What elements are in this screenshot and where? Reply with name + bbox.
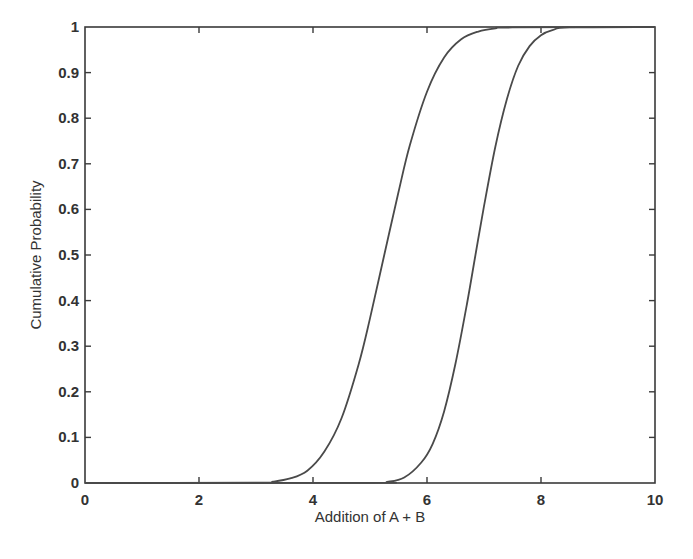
x-tick-label: 0 (81, 491, 89, 508)
y-tick-label: 0.3 (58, 337, 79, 354)
plot-frame (85, 27, 655, 483)
x-tick-label: 4 (309, 491, 318, 508)
y-tick-label: 0.9 (58, 64, 79, 81)
y-axis-label: Cumulative Probability (27, 180, 44, 330)
x-axis-label: Addition of A + B (315, 508, 426, 525)
y-tick-label: 0.8 (58, 109, 79, 126)
cdf-chart: 0246810 00.10.20.30.40.50.60.70.80.91 Ad… (0, 0, 693, 559)
y-tick-label: 0.5 (58, 246, 79, 263)
x-tick-label: 10 (647, 491, 664, 508)
plot-area-border (85, 27, 655, 483)
x-tick-label: 6 (423, 491, 431, 508)
y-tick-label: 0.1 (58, 428, 79, 445)
y-tick-label: 0.7 (58, 155, 79, 172)
x-tick-label: 2 (195, 491, 203, 508)
y-tick-label: 0.6 (58, 200, 79, 217)
x-tick-label: 8 (537, 491, 545, 508)
y-tick-label: 0 (71, 474, 79, 491)
y-tick-label: 0.4 (58, 292, 80, 309)
y-tick-label: 1 (71, 18, 79, 35)
y-tick-label: 0.2 (58, 383, 79, 400)
